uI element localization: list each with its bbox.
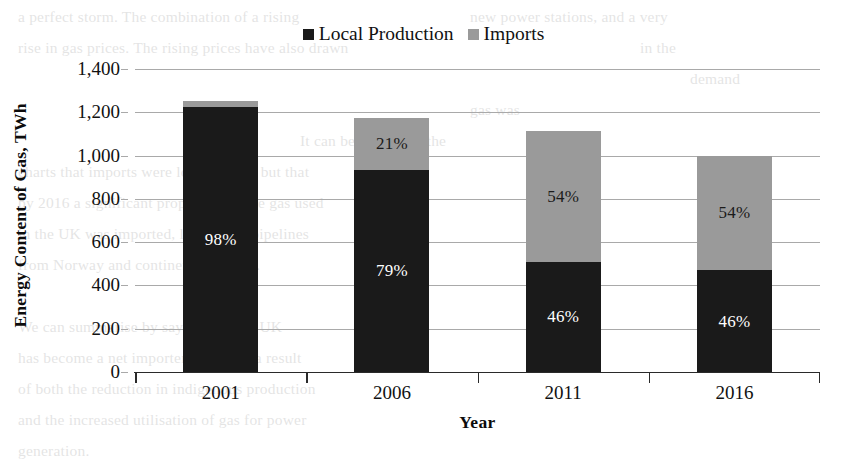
bar-group[interactable]: 46%54% [697,69,772,372]
y-tick-label: 400 [92,274,121,296]
bar-group[interactable]: 79%21% [354,69,429,372]
legend-item-imports: Imports [468,24,545,44]
bar-value-label: 54% [718,204,750,221]
bar-value-label: 21% [376,135,408,152]
y-tick-mark [121,242,128,243]
x-tick-label: 2016 [715,382,753,404]
y-tick-label: 1,200 [77,101,120,123]
y-tick-mark [121,199,128,200]
stacked-bar-chart: Local Production Imports Energy Content … [0,0,847,462]
bar-segment-local-production[interactable]: 46% [526,262,601,372]
bar-value-label: 46% [718,313,750,330]
y-tick-mark [121,69,128,70]
y-tick-label: 600 [92,231,121,253]
legend-swatch-dark-icon [303,29,314,40]
bar-value-label: 46% [547,308,579,325]
x-tick-label: 2011 [544,382,581,404]
bar-segment-imports[interactable] [183,101,258,106]
bar-value-label: 79% [376,262,408,279]
bar-value-label: 54% [547,188,579,205]
y-tick-label: 0 [111,361,121,383]
x-axis-labels: 2001200620112016 [135,382,820,408]
x-axis-title: Year [135,412,820,433]
chart-legend: Local Production Imports [0,24,847,44]
y-tick-label: 1,400 [77,58,120,80]
x-tick-label: 2006 [373,382,411,404]
bar-segment-local-production[interactable]: 98% [183,107,258,372]
bar-segment-local-production[interactable]: 46% [697,270,772,372]
y-tick-label: 1,000 [77,145,120,167]
bar-value-label: 98% [205,231,237,248]
bar-group[interactable]: 98% [183,69,258,372]
plot-area: 98%79%21%46%54%46%54% [135,69,820,372]
y-tick-mark [121,372,128,373]
y-tick-mark [121,156,128,157]
bar-segment-imports[interactable]: 54% [526,131,601,262]
y-tick-mark [121,329,128,330]
bar-segment-imports[interactable]: 21% [354,118,429,170]
y-tick-mark [121,112,128,113]
y-axis-title-text: Energy Content of Gas, TWh [10,103,31,327]
y-axis-title: Energy Content of Gas, TWh [2,56,38,374]
legend-label-imports: Imports [484,24,545,44]
x-tick-label: 2001 [202,382,240,404]
legend-swatch-gray-icon [468,29,479,40]
bar-segment-local-production[interactable]: 79% [354,170,429,372]
bar-segment-imports[interactable]: 54% [697,156,772,271]
y-axis-ticks: 02004006008001,0001,2001,400 [40,69,128,372]
legend-label-local-production: Local Production [319,24,454,44]
y-tick-mark [121,285,128,286]
bar-group[interactable]: 46%54% [526,69,601,372]
y-tick-label: 800 [92,188,121,210]
y-tick-label: 200 [92,318,121,340]
legend-item-local-production: Local Production [303,24,454,44]
